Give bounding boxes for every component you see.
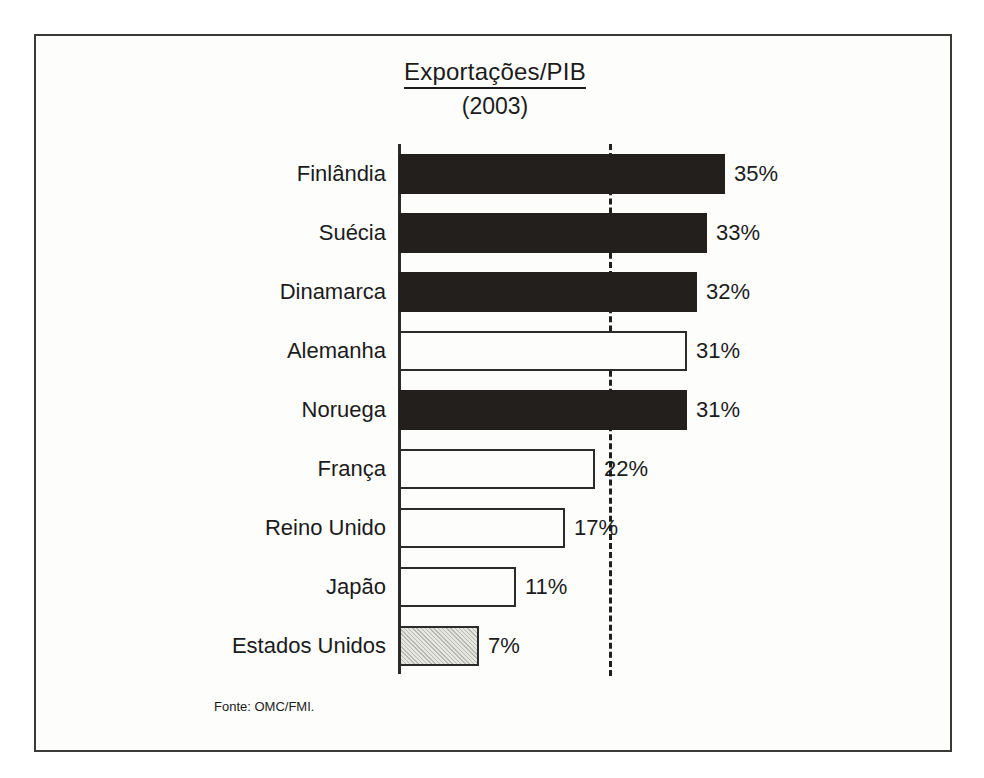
screenshot-canvas: Exportações/PIB (2003) Finlândia35%Suéci… <box>0 0 984 778</box>
bar-row: Dinamarca32% <box>36 262 954 321</box>
bar <box>399 390 687 430</box>
bar-row: Finlândia35% <box>36 144 954 203</box>
bar-value-label: 7% <box>488 633 520 659</box>
category-label: Estados Unidos <box>232 633 386 659</box>
figure-frame: Exportações/PIB (2003) Finlândia35%Suéci… <box>34 34 952 752</box>
bar-value-label: 17% <box>574 515 618 541</box>
bar-value-label: 22% <box>604 456 648 482</box>
category-label: Reino Unido <box>265 515 386 541</box>
bar-row: Alemanha31% <box>36 321 954 380</box>
bar-row: Estados Unidos7% <box>36 616 954 675</box>
bar-value-label: 11% <box>525 574 567 600</box>
bar-row: Suécia33% <box>36 203 954 262</box>
bar-value-label: 32% <box>706 279 750 305</box>
bar <box>399 567 516 607</box>
category-label: França <box>318 456 386 482</box>
category-label: Noruega <box>302 397 386 423</box>
bar <box>399 626 479 666</box>
category-label: Finlândia <box>297 161 386 187</box>
category-label: Dinamarca <box>280 279 386 305</box>
bar-row: Japão11% <box>36 557 954 616</box>
bar-row: Reino Unido17% <box>36 498 954 557</box>
bar-row: França22% <box>36 439 954 498</box>
bar-value-label: 33% <box>716 220 760 246</box>
bar <box>399 213 707 253</box>
category-label: Alemanha <box>287 338 386 364</box>
category-label: Japão <box>326 574 386 600</box>
bar-row: Noruega31% <box>36 380 954 439</box>
bar <box>399 272 697 312</box>
bar-value-label: 35% <box>734 161 778 187</box>
source-note: Fonte: OMC/FMI. <box>214 699 314 714</box>
bar <box>399 508 565 548</box>
bar-chart-plot-area: Finlândia35%Suécia33%Dinamarca32%Alemanh… <box>36 36 954 754</box>
bar-rows: Finlândia35%Suécia33%Dinamarca32%Alemanh… <box>36 144 954 675</box>
category-label: Suécia <box>319 220 386 246</box>
bar-value-label: 31% <box>696 338 740 364</box>
bar <box>399 154 725 194</box>
bar <box>399 331 687 371</box>
bar-value-label: 31% <box>696 397 740 423</box>
bar <box>399 449 595 489</box>
